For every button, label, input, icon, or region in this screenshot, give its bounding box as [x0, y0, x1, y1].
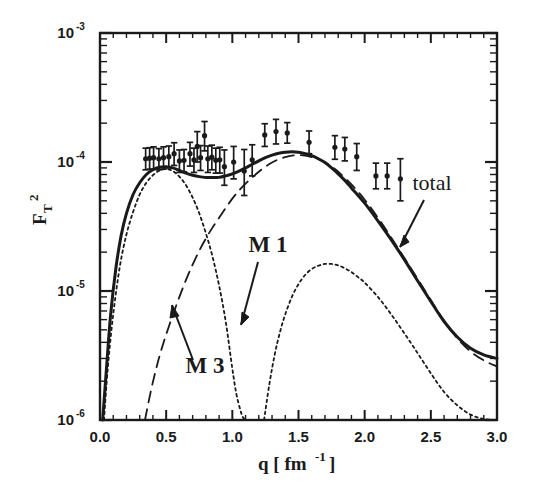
data-points-layer [142, 119, 403, 200]
x-axis-ticks [100, 33, 497, 420]
data-marker [166, 154, 171, 159]
annotation-m3-arrowhead [170, 305, 179, 318]
x-tick-label: 2.5 [420, 428, 441, 445]
annotation-m1-arrowhead [241, 312, 249, 325]
data-point [332, 136, 338, 160]
data-point [205, 146, 211, 172]
x-tick-label: 2.0 [354, 428, 375, 445]
data-marker [385, 173, 390, 178]
x-tick-label: 0.5 [156, 428, 177, 445]
data-point [397, 159, 403, 201]
data-point [217, 147, 223, 173]
data-marker [161, 155, 166, 160]
data-marker [262, 132, 267, 137]
annotation-total-label: total [412, 170, 451, 195]
data-marker [151, 155, 156, 160]
x-axis-title: q [ fm-1] [258, 449, 335, 474]
curve-M1 [104, 169, 246, 420]
data-point [241, 149, 247, 195]
data-marker [306, 140, 311, 145]
y-tick-label: 10-3 [57, 21, 85, 41]
data-marker [217, 157, 222, 162]
figure-root: 0.00.51.01.52.02.53.0 10-310-410-510-6 t… [0, 0, 545, 501]
data-marker [354, 154, 359, 159]
data-point [373, 163, 379, 189]
y-axis-title-main: F [29, 213, 50, 225]
y-tick-exponent: -6 [76, 408, 85, 419]
x-tick-label: 1.5 [288, 428, 309, 445]
y-axis-ticks [100, 33, 497, 420]
data-marker [187, 151, 192, 156]
y-tick-exponent: -4 [76, 150, 85, 161]
plot-border [100, 33, 497, 420]
data-point [342, 137, 348, 160]
data-point [221, 150, 227, 185]
data-marker [332, 145, 337, 150]
data-point [273, 119, 279, 144]
y-tick-label: 10-5 [57, 279, 85, 299]
data-marker [373, 173, 378, 178]
annotations-layer: totalM 1M 3 [170, 170, 452, 378]
x-axis-title-exponent: -1 [315, 449, 326, 464]
data-marker [250, 157, 255, 162]
y-axis-title-superscript: 2 [26, 195, 41, 202]
y-tick-label: 10-4 [57, 150, 85, 170]
annotation-total-arrowhead [400, 235, 409, 247]
annotation-m1-label: M 1 [249, 232, 288, 257]
data-marker [242, 169, 247, 174]
data-point [150, 147, 156, 169]
data-point [187, 142, 193, 166]
data-marker [231, 159, 236, 164]
data-marker [285, 130, 290, 135]
axes-frame [100, 33, 497, 420]
data-marker [342, 146, 347, 151]
x-axis-tick-labels: 0.00.51.01.52.02.53.0 [90, 428, 508, 445]
data-point [284, 123, 290, 144]
data-marker [181, 158, 186, 163]
data-marker [398, 176, 403, 181]
x-tick-label: 0.0 [90, 428, 111, 445]
data-point [249, 145, 255, 176]
data-point [384, 163, 390, 189]
y-axis-tick-labels: 10-310-410-510-6 [57, 21, 85, 428]
data-point [197, 146, 203, 171]
data-point [262, 124, 268, 147]
y-axis-title: FT2 [26, 195, 55, 226]
y-tick-mantissa: 10 [57, 24, 74, 41]
data-marker [177, 158, 182, 163]
x-tick-label: 1.0 [222, 428, 243, 445]
y-tick-exponent: -3 [76, 21, 85, 32]
data-marker [198, 155, 203, 160]
data-marker [273, 129, 278, 134]
x-axis-title-close: ] [329, 453, 335, 474]
y-axis-title-subscript: T [40, 204, 55, 213]
data-marker [172, 151, 177, 156]
y-tick-mantissa: 10 [57, 153, 74, 170]
data-point [306, 131, 312, 154]
data-marker [202, 133, 207, 138]
data-marker [222, 164, 227, 169]
x-axis-title-main: q [ fm [258, 453, 307, 474]
y-tick-mantissa: 10 [57, 411, 74, 428]
y-tick-mantissa: 10 [57, 282, 74, 299]
data-point [354, 144, 360, 171]
plot-canvas: 0.00.51.01.52.02.53.0 10-310-410-510-6 t… [0, 0, 545, 501]
data-marker [156, 156, 161, 161]
x-tick-label: 3.0 [487, 428, 508, 445]
y-tick-label: 10-6 [57, 408, 85, 428]
data-point [181, 149, 187, 171]
y-tick-exponent: -5 [76, 279, 85, 290]
